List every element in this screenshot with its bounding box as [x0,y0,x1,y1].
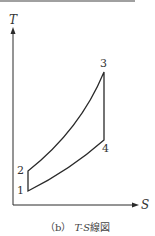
t-axis-arrow-icon [11,27,16,34]
point-1-label: 1 [17,184,24,197]
point-3-label: 3 [100,57,107,70]
caption-prefix: （b） [45,222,71,233]
s-axis-label: S [141,198,149,212]
figure-caption: （b） T-S線図 [0,219,155,234]
point-4-label: 4 [102,142,109,155]
s-axis-arrow-icon [132,203,139,208]
point-2-label: 2 [17,164,24,177]
caption-suffix: 線図 [90,222,110,233]
t-axis-label: T [9,13,18,27]
ts-diagram: T S 1 2 3 4 [0,0,155,236]
cycle-path [28,72,104,191]
caption-title: T-S [74,222,90,233]
